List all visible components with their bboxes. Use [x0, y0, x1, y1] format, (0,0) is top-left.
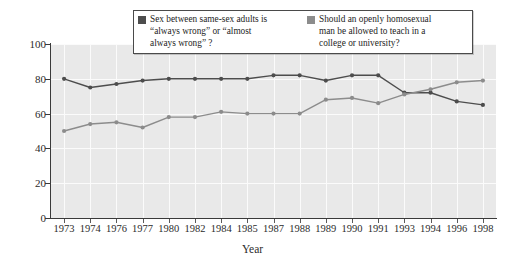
data-point — [271, 73, 275, 77]
series-line-0 — [64, 75, 483, 105]
data-point — [402, 92, 406, 96]
x-tick-label: 1977 — [132, 224, 153, 235]
data-point — [88, 122, 92, 126]
y-tick-label: 0 — [20, 213, 46, 224]
data-point — [141, 125, 145, 129]
series-line-1 — [64, 81, 483, 131]
legend-label-0-line1: Sex between same-sex adults is — [150, 14, 267, 24]
y-tick-mark — [45, 148, 50, 149]
y-tick-mark — [45, 218, 50, 219]
data-point — [62, 77, 66, 81]
data-point — [114, 120, 118, 124]
data-point — [350, 73, 354, 77]
data-point — [455, 80, 459, 84]
x-tick-label: 1980 — [158, 224, 179, 235]
y-tick-mark — [45, 44, 50, 45]
y-tick-label: 80 — [20, 74, 46, 85]
x-tick-mark — [404, 219, 405, 223]
data-point — [114, 82, 118, 86]
x-tick-mark — [247, 219, 248, 223]
x-tick-mark — [300, 219, 301, 223]
x-tick-mark — [195, 219, 196, 223]
data-point — [324, 98, 328, 102]
x-tick-label: 1998 — [472, 224, 493, 235]
x-tick-label: 1991 — [368, 224, 389, 235]
legend-label-1-line3: college or university? — [319, 38, 400, 48]
data-point — [219, 110, 223, 114]
data-point — [455, 99, 459, 103]
legend-label-1-line2: man be allowed to teach in a — [319, 26, 425, 36]
x-tick-mark — [169, 219, 170, 223]
data-point — [428, 87, 432, 91]
x-tick-mark — [483, 219, 484, 223]
data-point — [376, 73, 380, 77]
data-point — [271, 112, 275, 116]
y-tick-mark — [45, 79, 50, 80]
legend-entry-1: Should an openly homosexual man be allow… — [307, 14, 468, 50]
x-axis-tick-labels: 1973197419761977198019821984198519871988… — [0, 224, 505, 240]
y-tick-mark — [45, 183, 50, 184]
x-tick-label: 1973 — [54, 224, 75, 235]
x-tick-mark — [221, 219, 222, 223]
legend-label-0: Sex between same-sex adults is “always w… — [150, 14, 267, 50]
y-tick-label: 20 — [20, 178, 46, 189]
chart-legend: Sex between same-sex adults is “always w… — [133, 10, 473, 54]
x-tick-label: 1976 — [106, 224, 127, 235]
x-tick-mark — [352, 219, 353, 223]
x-tick-label: 1987 — [263, 224, 284, 235]
legend-swatch-icon-0 — [138, 16, 146, 24]
data-point — [481, 78, 485, 82]
y-tick-label: 100 — [20, 39, 46, 50]
legend-label-1-line1: Should an openly homosexual — [319, 14, 431, 24]
data-point — [376, 101, 380, 105]
x-tick-label: 1994 — [420, 224, 441, 235]
data-point — [141, 78, 145, 82]
x-tick-mark — [326, 219, 327, 223]
legend-swatch-icon-1 — [307, 16, 315, 24]
data-point — [324, 78, 328, 82]
y-tick-mark — [45, 114, 50, 115]
x-tick-mark — [64, 219, 65, 223]
data-point — [88, 85, 92, 89]
x-tick-label: 1984 — [211, 224, 232, 235]
data-point — [167, 77, 171, 81]
x-axis-title: Year — [0, 243, 505, 255]
data-point — [193, 77, 197, 81]
x-tick-label: 1974 — [80, 224, 101, 235]
data-point — [62, 129, 66, 133]
data-point — [298, 112, 302, 116]
legend-label-1: Should an openly homosexual man be allow… — [319, 14, 431, 50]
data-point — [481, 103, 485, 107]
legend-label-0-line3: always wrong” ? — [150, 38, 212, 48]
x-tick-label: 1996 — [446, 224, 467, 235]
x-tick-mark — [378, 219, 379, 223]
x-tick-mark — [116, 219, 117, 223]
x-tick-mark — [431, 219, 432, 223]
x-tick-label: 1989 — [315, 224, 336, 235]
x-tick-mark — [90, 219, 91, 223]
data-point — [193, 115, 197, 119]
data-point — [219, 77, 223, 81]
data-point — [298, 73, 302, 77]
chart-figure: Percentage answering “yes” 100806040200 … — [0, 0, 505, 267]
x-tick-label: 1993 — [394, 224, 415, 235]
data-point — [167, 115, 171, 119]
x-tick-label: 1982 — [184, 224, 205, 235]
legend-label-0-line2: “always wrong” or “almost — [150, 26, 251, 36]
data-point — [245, 77, 249, 81]
series-plot — [51, 44, 496, 218]
y-tick-label: 40 — [20, 143, 46, 154]
x-tick-mark — [457, 219, 458, 223]
x-tick-label: 1988 — [289, 224, 310, 235]
x-tick-mark — [143, 219, 144, 223]
data-point — [245, 112, 249, 116]
x-tick-mark — [274, 219, 275, 223]
y-tick-label: 60 — [20, 109, 46, 120]
x-tick-label: 1990 — [342, 224, 363, 235]
x-tick-label: 1985 — [237, 224, 258, 235]
data-point — [350, 96, 354, 100]
legend-entry-0: Sex between same-sex adults is “always w… — [138, 14, 299, 50]
